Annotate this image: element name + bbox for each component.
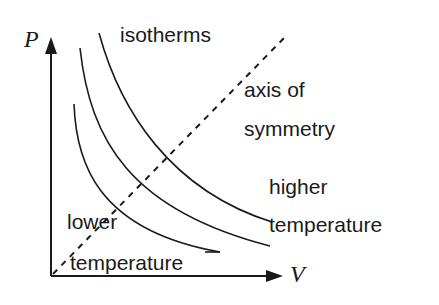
pv-diagram [0,0,439,305]
lower-temperature-label-line2: temperature [70,251,183,275]
lower-temperature-label-line1: lower [67,210,117,234]
isotherms-label: isotherms [120,23,211,47]
axis-of-symmetry-label-line2: symmetry [244,117,335,141]
v-axis-label: V [290,261,305,288]
higher-temperature-label-line1: higher [269,175,327,199]
p-axis-label: P [24,26,39,53]
p-axis-arrow-icon [45,37,57,54]
axis-of-symmetry-label-line1: axis of [244,78,305,102]
higher-temperature-label-line2: temperature [269,213,382,237]
v-axis-arrow-icon [266,270,283,282]
